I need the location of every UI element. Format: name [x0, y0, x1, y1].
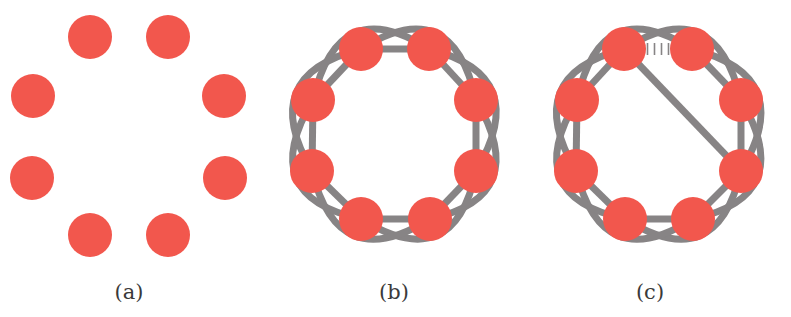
node-b-3 — [454, 149, 498, 193]
node-a-5 — [68, 213, 112, 257]
node-a-4 — [146, 213, 190, 257]
octagon-network-figure: (a) (b) (c) — [0, 0, 791, 317]
node-a-7 — [11, 74, 55, 118]
node-a-3 — [203, 156, 247, 200]
diagram-canvas — [0, 0, 791, 317]
panel-b-label: (b) — [379, 280, 409, 304]
node-b-7 — [291, 78, 335, 122]
panel-a — [10, 15, 247, 257]
panel-c-label: (c) — [636, 280, 664, 304]
node-c-4 — [671, 197, 715, 241]
node-a-6 — [10, 156, 54, 200]
node-b-0 — [339, 27, 383, 71]
panel-c — [554, 27, 763, 241]
node-a-2 — [202, 74, 246, 118]
node-b-1 — [407, 27, 451, 71]
panel-a-label: (a) — [115, 280, 144, 304]
node-c-0 — [602, 27, 646, 71]
node-b-5 — [339, 197, 383, 241]
node-c-7 — [555, 78, 599, 122]
panel-b — [290, 27, 498, 241]
node-c-2 — [719, 78, 763, 122]
node-c-5 — [603, 197, 647, 241]
node-b-4 — [408, 197, 452, 241]
node-b-6 — [290, 149, 334, 193]
node-a-1 — [146, 15, 190, 59]
node-c-1 — [670, 27, 714, 71]
node-c-3 — [719, 149, 763, 193]
node-b-2 — [454, 78, 498, 122]
node-a-0 — [68, 15, 112, 59]
node-c-6 — [554, 149, 598, 193]
